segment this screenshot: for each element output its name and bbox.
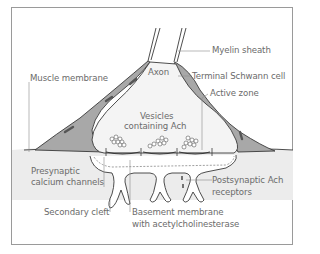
label-muscle-membrane: Muscle membrane [30,73,108,83]
label-basement-line2: with acetylcholinesterase [132,219,239,229]
label-active-zone: Active zone [210,88,259,98]
label-presynaptic-line1: Presynaptic [31,166,80,176]
label-vesicles-line2: containing Ach [124,121,186,131]
label-presynaptic-line2: calcium channels [31,177,104,187]
label-myelin-sheath: Myelin sheath [212,45,271,55]
label-vesicles-line1: Vesicles [140,111,173,121]
label-basement-line1: Basement membrane [132,207,223,217]
label-secondary-cleft: Secondary cleft [44,207,109,217]
label-terminal-schwann-cell: Terminal Schwann cell [192,71,285,81]
label-postsynaptic-line2: receptors [212,187,252,197]
label-postsynaptic-line1: Postsynaptic Ach [212,175,283,185]
label-axon: Axon [148,67,169,77]
